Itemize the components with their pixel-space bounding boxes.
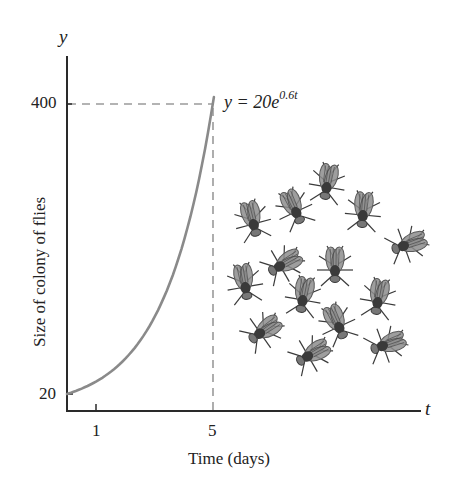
fly-icon: [343, 190, 382, 233]
x-axis-title: Time (days): [188, 449, 270, 469]
t-axis-variable: t: [425, 398, 430, 420]
xtick-label-1: 1: [92, 421, 101, 441]
fly-colony-illustration: [223, 160, 432, 379]
ytick-label-20: 20: [39, 384, 56, 404]
fly-icon: [269, 182, 319, 233]
chart-canvas: [0, 0, 464, 477]
curve-equation-label: y = 20e0.6t: [224, 90, 297, 113]
xtick-label-5: 5: [208, 421, 217, 441]
fly-icon: [383, 221, 433, 269]
growth-curve: [67, 97, 214, 394]
fly-icon: [230, 196, 275, 244]
fly-icon: [223, 260, 265, 306]
fly-icon: [237, 305, 290, 357]
y-axis-variable: y: [59, 26, 67, 48]
ytick-label-400: 400: [31, 93, 57, 113]
equation-exponent: 0.6t: [279, 88, 297, 102]
fly-icon: [285, 328, 338, 379]
fly-icon: [317, 246, 353, 286]
fly-icon: [357, 275, 399, 321]
fly-icon: [362, 321, 412, 369]
y-axis-title: Size of colony of flies: [30, 197, 50, 347]
fly-icon: [306, 160, 348, 206]
equation-base: y = 20e: [224, 92, 279, 112]
